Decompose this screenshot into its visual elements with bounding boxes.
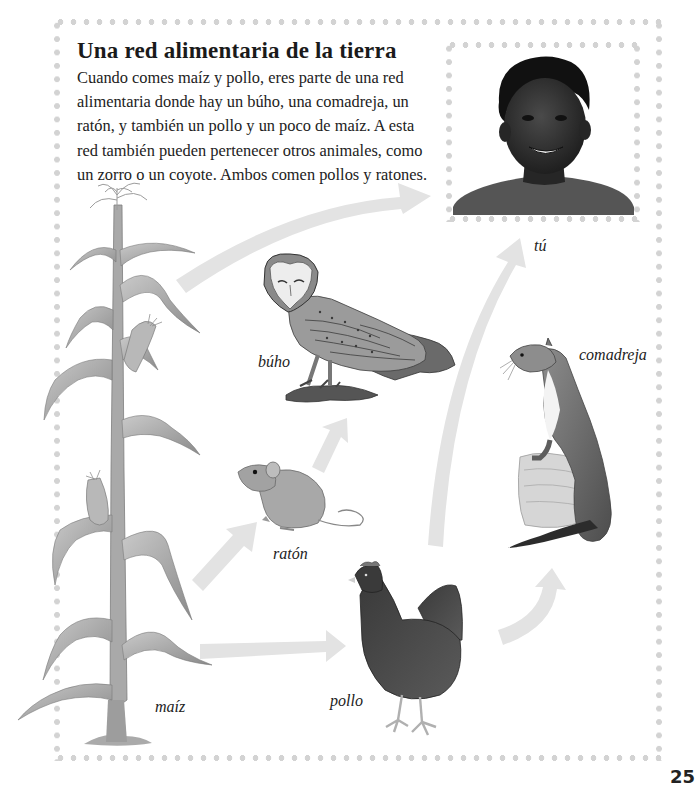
you-photo <box>453 52 634 215</box>
page-number: 25 <box>670 768 695 786</box>
arrow-corn-to-chicken <box>200 630 346 662</box>
corn-label: maíz <box>155 698 186 715</box>
chicken-illustration <box>348 562 462 735</box>
mouse-illustration <box>238 462 363 530</box>
arrow-chicken-to-you <box>428 238 526 547</box>
mouse-label: ratón <box>273 545 308 562</box>
owl-label: búho <box>258 353 290 370</box>
boy-portrait-image <box>453 52 634 215</box>
weasel-label: comadreja <box>579 346 647 364</box>
chicken-label: pollo <box>329 692 363 710</box>
you-label: tú <box>534 237 546 254</box>
arrow-corn-to-mouse <box>192 522 257 591</box>
arrow-chicken-to-weasel <box>498 568 566 645</box>
arrow-mouse-to-owl <box>312 418 348 473</box>
owl-illustration <box>264 254 455 402</box>
weasel-illustration <box>500 338 611 548</box>
corn-illustration <box>18 183 212 746</box>
